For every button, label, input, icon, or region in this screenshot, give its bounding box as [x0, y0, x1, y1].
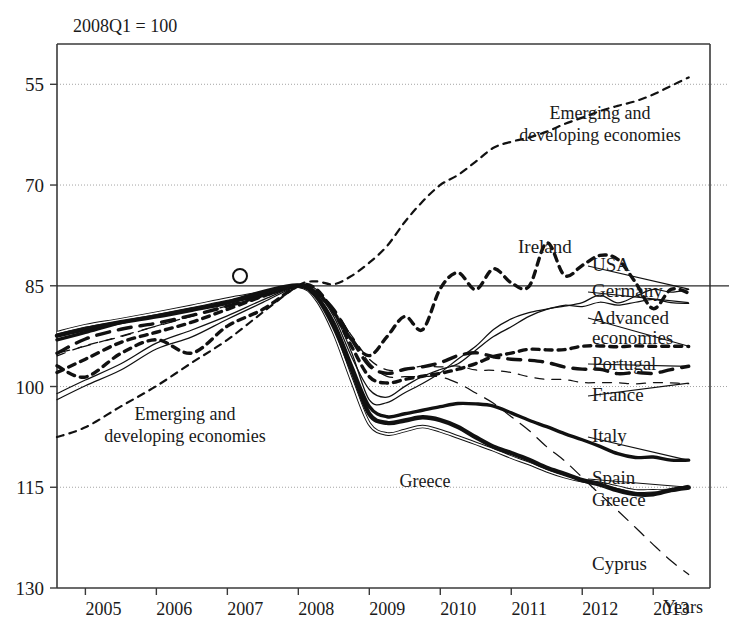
- y-tick-label-115: 70: [25, 175, 44, 196]
- x-tick-label-2008: 2008: [298, 599, 334, 619]
- annotation-greece-inline: Greece: [400, 471, 451, 491]
- x-tick-label-2007: 2007: [227, 599, 263, 619]
- series-label-ireland: Ireland: [518, 236, 572, 257]
- x-axis-title: Years: [663, 597, 703, 617]
- series-label-portugal: Portugal: [592, 353, 656, 374]
- series-label-advanced-economies: Advanced: [592, 307, 670, 328]
- y-tick-label-70: 115: [16, 477, 44, 498]
- line-chart: 130115100857055 200520062007200820092010…: [0, 0, 729, 640]
- series-label-greece: Greece: [592, 489, 646, 510]
- x-tick-label-2006: 2006: [156, 599, 192, 619]
- x-tick-label-2009: 2009: [369, 599, 405, 619]
- series-label-italy: Italy: [592, 425, 627, 446]
- y-tick-label-130: 55: [25, 74, 44, 95]
- series-label-cyprus: Cyprus: [592, 553, 647, 574]
- annotation-emerging-right-line2: developing economies: [519, 125, 680, 145]
- chart-container: 130115100857055 200520062007200820092010…: [0, 0, 729, 640]
- x-tick-label-2012: 2012: [582, 599, 618, 619]
- x-tick-group: 200520062007200820092010201120122013: [85, 588, 689, 619]
- series-label-usa: USA: [592, 254, 630, 275]
- x-tick-label-2010: 2010: [440, 599, 476, 619]
- series-label-france: France: [592, 384, 644, 405]
- index-note: 2008Q1 = 100: [73, 16, 177, 36]
- series-label-advanced-economies-line2: economies: [592, 327, 673, 348]
- series-label-germany: Germany: [592, 280, 663, 301]
- y-tick-label-55: 130: [16, 578, 45, 599]
- x-tick-label-2011: 2011: [512, 599, 547, 619]
- y-tick-label-100: 85: [25, 276, 44, 297]
- base-year-marker: [233, 269, 247, 283]
- annotation-emerging-left-line1: Emerging and: [134, 404, 235, 424]
- series-label-spain: Spain: [592, 467, 636, 488]
- annotation-emerging-left-line2: developing economies: [104, 426, 265, 446]
- y-tick-label-85: 100: [16, 377, 45, 398]
- x-tick-label-2005: 2005: [85, 599, 121, 619]
- annotation-emerging-right-line1: Emerging and: [549, 103, 650, 123]
- y-tick-group: 130115100857055: [16, 74, 58, 599]
